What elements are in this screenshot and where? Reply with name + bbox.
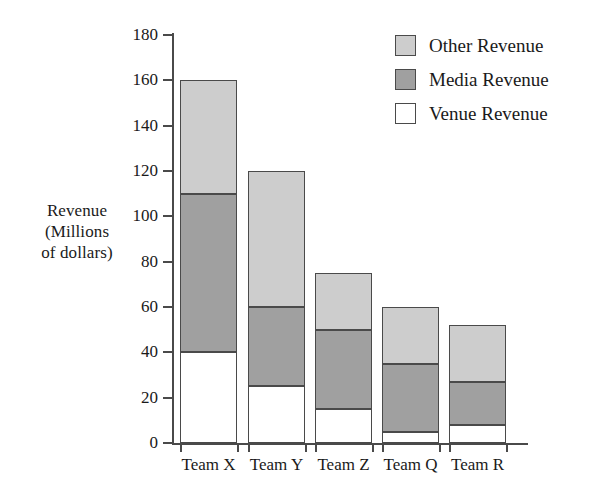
- bar-segment-media: [382, 364, 439, 432]
- y-tick-label: 140: [118, 117, 158, 134]
- bar-segment-other: [449, 325, 506, 382]
- y-tick-label-wrap: 40: [112, 343, 158, 360]
- y-tick-label: 80: [118, 253, 158, 270]
- x-axis-line: [172, 443, 528, 445]
- y-tick-mark: [163, 79, 172, 81]
- bar-team-r: [449, 325, 506, 443]
- y-tick-label: 120: [118, 162, 158, 179]
- x-tick-mark: [248, 443, 250, 452]
- y-tick-label-wrap: 0: [112, 434, 158, 451]
- y-tick-mark: [163, 170, 172, 172]
- y-tick-label-wrap: 100: [112, 207, 158, 224]
- bar-segment-media: [180, 194, 237, 353]
- y-tick-label: 180: [118, 26, 158, 43]
- bar-segment-other: [180, 80, 237, 193]
- bar-segment-venue: [248, 386, 305, 443]
- x-tick-mark: [180, 443, 182, 452]
- bar-segment-other: [315, 273, 372, 330]
- stacked-bar-chart: Revenue (Millions of dollars) 0204060801…: [0, 0, 605, 495]
- y-tick-mark: [163, 351, 172, 353]
- legend-label: Other Revenue: [429, 35, 543, 56]
- bar-segment-other: [382, 307, 439, 364]
- x-tick-mark: [372, 443, 374, 452]
- y-tick-label-wrap: 140: [112, 117, 158, 134]
- y-tick-mark: [163, 125, 172, 127]
- y-tick-mark: [163, 442, 172, 444]
- y-tick-label-wrap: 80: [112, 253, 158, 270]
- y-tick-label: 0: [118, 434, 158, 451]
- y-tick-mark: [163, 34, 172, 36]
- bar-team-x: [180, 80, 237, 443]
- bar-team-y: [248, 171, 305, 443]
- x-tick-mark: [237, 443, 239, 452]
- bar-segment-venue: [449, 425, 506, 443]
- x-tick-mark: [439, 443, 441, 452]
- x-tick-mark: [449, 443, 451, 452]
- bar-segment-venue: [180, 352, 237, 443]
- legend-swatch-venue-icon: [395, 103, 416, 124]
- legend-item-other-revenue: Other Revenue: [395, 28, 600, 62]
- y-tick-label-wrap: 20: [112, 389, 158, 406]
- bar-segment-other: [248, 171, 305, 307]
- y-tick-mark: [163, 397, 172, 399]
- bar-segment-media: [449, 382, 506, 425]
- y-axis-line: [172, 33, 174, 445]
- y-tick-label-wrap: 60: [112, 298, 158, 315]
- legend-item-media-revenue: Media Revenue: [395, 62, 600, 96]
- y-tick-mark: [163, 215, 172, 217]
- bar-segment-media: [248, 307, 305, 386]
- legend-label: Venue Revenue: [429, 103, 548, 124]
- x-tick-mark: [382, 443, 384, 452]
- bar-segment-venue: [382, 432, 439, 443]
- y-tick-label: 160: [118, 71, 158, 88]
- legend-swatch-other-icon: [395, 35, 416, 56]
- legend-label: Media Revenue: [429, 69, 549, 90]
- x-axis-label-team-r: Team R: [433, 455, 523, 474]
- legend-swatch-media-icon: [395, 69, 416, 90]
- x-tick-mark: [506, 443, 508, 452]
- bar-team-z: [315, 273, 372, 443]
- bar-team-q: [382, 307, 439, 443]
- y-tick-label: 20: [118, 389, 158, 406]
- y-tick-mark: [163, 261, 172, 263]
- y-tick-label-wrap: 180: [112, 26, 158, 43]
- y-tick-label-wrap: 120: [112, 162, 158, 179]
- legend: Other RevenueMedia RevenueVenue Revenue: [395, 28, 600, 130]
- y-tick-mark: [163, 306, 172, 308]
- y-tick-label: 60: [118, 298, 158, 315]
- y-tick-label-wrap: 160: [112, 71, 158, 88]
- legend-item-venue-revenue: Venue Revenue: [395, 96, 600, 130]
- x-tick-mark: [315, 443, 317, 452]
- x-tick-mark: [305, 443, 307, 452]
- bar-segment-venue: [315, 409, 372, 443]
- y-tick-label: 40: [118, 343, 158, 360]
- bar-segment-media: [315, 330, 372, 409]
- y-tick-label: 100: [118, 207, 158, 224]
